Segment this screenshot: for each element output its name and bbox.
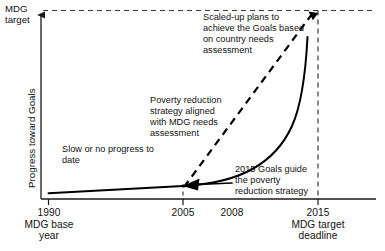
series-slow-progress — [49, 186, 184, 193]
x-tick-label-2005: 2005 — [155, 207, 211, 218]
x-tick-sublabel-2015: MDG target deadline — [281, 219, 355, 242]
mdg-target-label: MDG target — [5, 4, 45, 26]
annotation-goals-guide-strategy: 2015 Goals guide the poverty reduction s… — [235, 164, 331, 197]
x-tick-label-2015: 2015 — [290, 207, 346, 218]
x-tick-label-1990: 1990 — [20, 207, 78, 218]
y-axis-title: Progress toward Goals — [26, 88, 37, 188]
annotation-scaled-up-plans: Scaled-up plans to achieve the Goals bas… — [203, 12, 321, 56]
annotation-poverty-reduction-strategy: Poverty reduction strategy aligned with … — [150, 95, 250, 139]
annotation-slow-progress: Slow or no progress to date — [62, 144, 192, 166]
mdg-progress-chart: MDG target Progress toward Goals 1990 MD… — [0, 0, 385, 251]
x-tick-label-2008: 2008 — [204, 207, 260, 218]
x-tick-sublabel-1990: MDG base year — [14, 219, 84, 242]
